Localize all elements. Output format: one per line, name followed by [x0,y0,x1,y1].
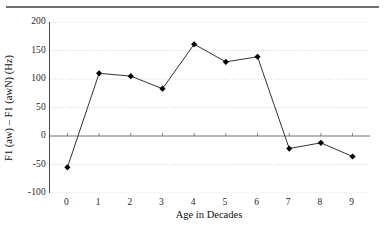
plot-area [49,22,369,193]
top-rule-divider [6,6,379,8]
y-tick-label: 50 [6,103,46,113]
y-axis-tick-labels: 200150100500-50-100 [3,22,46,193]
x-tick-label: 8 [309,197,331,208]
data-series-line [67,44,352,167]
y-tick-label: 200 [6,17,46,27]
data-point-marker [349,153,355,159]
x-tick-label: 4 [182,197,204,208]
line-chart-svg [50,22,370,193]
data-point-marker [64,164,70,170]
figure-container: F1 (aw) – F1 (awN) (Hz) 200150100500-50-… [0,0,385,230]
data-point-marker [159,86,165,92]
data-point-marker [254,54,260,60]
data-point-marker [223,59,229,65]
y-tick-label: 0 [6,131,46,141]
y-tick-label: -50 [6,160,46,170]
x-tick-label: 2 [119,197,141,208]
x-tick-label: 9 [341,197,363,208]
y-tick-label: -100 [6,188,46,198]
data-point-marker [96,70,102,76]
data-point-marker [286,145,292,151]
x-tick-label: 6 [246,197,268,208]
x-axis-title: Age in Decades [49,209,369,221]
x-tick-label: 1 [87,197,109,208]
data-point-marker [191,41,197,47]
x-tick-label: 3 [150,197,172,208]
data-point-marker [318,140,324,146]
x-tick-label: 7 [277,197,299,208]
y-tick-label: 100 [6,74,46,84]
x-tick-label: 0 [55,197,77,208]
y-tick-label: 150 [6,46,46,56]
x-tick-label: 5 [214,197,236,208]
data-point-marker [128,73,134,79]
gridlines-group [50,22,370,193]
data-point-markers [64,41,355,170]
